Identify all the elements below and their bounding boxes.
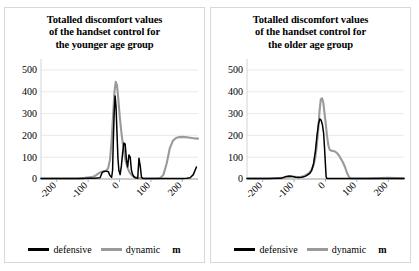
figure-root: Totalled discomfort values of the handse… (0, 0, 419, 271)
legend-entry-dynamic: dynamic (307, 244, 366, 255)
legend-entry-defensive: defensive (234, 244, 297, 255)
y-tick-label: 200 (228, 130, 243, 141)
chart-title-line-3: the older age group (219, 39, 402, 51)
y-tick-label: 0 (238, 174, 243, 185)
legend-entry-defensive: defensive (28, 244, 91, 255)
legend-entry-dynamic: dynamic (101, 244, 160, 255)
x-tick-label: 200 (165, 180, 183, 198)
y-tick-label: 100 (228, 152, 243, 163)
y-tick-label: 0 (32, 174, 37, 185)
x-tick-label: 100 (340, 180, 358, 198)
y-tick-label: 400 (22, 86, 37, 97)
x-tick-label: -100 (69, 180, 90, 201)
y-tick-label: 100 (22, 152, 37, 163)
chart-title-line-2: of the handset control for (13, 26, 196, 38)
y-tick-label: 200 (22, 130, 37, 141)
plot-svg-younger: 0100200300400500-200-1000100200 (5, 53, 204, 221)
y-tick-label: 300 (22, 108, 37, 119)
x-tick-label: -200 (243, 180, 264, 201)
legend-label-defensive: defensive (53, 244, 91, 255)
x-tick-label: -100 (275, 180, 296, 201)
legend-label-defensive: defensive (259, 244, 297, 255)
x-axis-unit-label: m (172, 244, 180, 255)
series-line-dynamic (41, 82, 198, 179)
chart-title-line-1: Totalled discomfort values (13, 14, 196, 26)
plot-area-younger: 0100200300400500-200-1000100200 (5, 53, 204, 244)
legend-younger: defensive dynamic m (5, 244, 204, 262)
x-tick-label: -200 (37, 180, 58, 201)
x-tick-label: 100 (134, 180, 152, 198)
chart-panel-younger: Totalled discomfort values of the handse… (4, 7, 205, 263)
legend-label-dynamic: dynamic (332, 244, 366, 255)
plot-svg-older: 0100200300400500-200-1000100200 (211, 53, 410, 221)
chart-title-line-3: the younger age group (13, 39, 196, 51)
y-tick-label: 300 (228, 108, 243, 119)
legend-swatch-dynamic (101, 248, 122, 252)
y-tick-label: 500 (228, 65, 243, 76)
chart-panel-older: Totalled discomfort values of the handse… (210, 7, 411, 263)
legend-label-dynamic: dynamic (126, 244, 160, 255)
legend-swatch-defensive (28, 248, 49, 252)
y-tick-label: 400 (228, 86, 243, 97)
plot-area-older: 0100200300400500-200-1000100200 (211, 53, 410, 244)
chart-title-line-1: Totalled discomfort values (219, 14, 402, 26)
y-tick-label: 500 (22, 65, 37, 76)
legend-older: defensive dynamic m (211, 244, 410, 262)
x-axis-unit-label: m (378, 244, 386, 255)
legend-swatch-defensive (234, 248, 255, 252)
legend-swatch-dynamic (307, 248, 328, 252)
x-tick-label: 200 (371, 180, 389, 198)
chart-title-older: Totalled discomfort values of the handse… (211, 8, 410, 53)
chart-title-younger: Totalled discomfort values of the handse… (5, 8, 204, 53)
chart-title-line-2: of the handset control for (219, 26, 402, 38)
